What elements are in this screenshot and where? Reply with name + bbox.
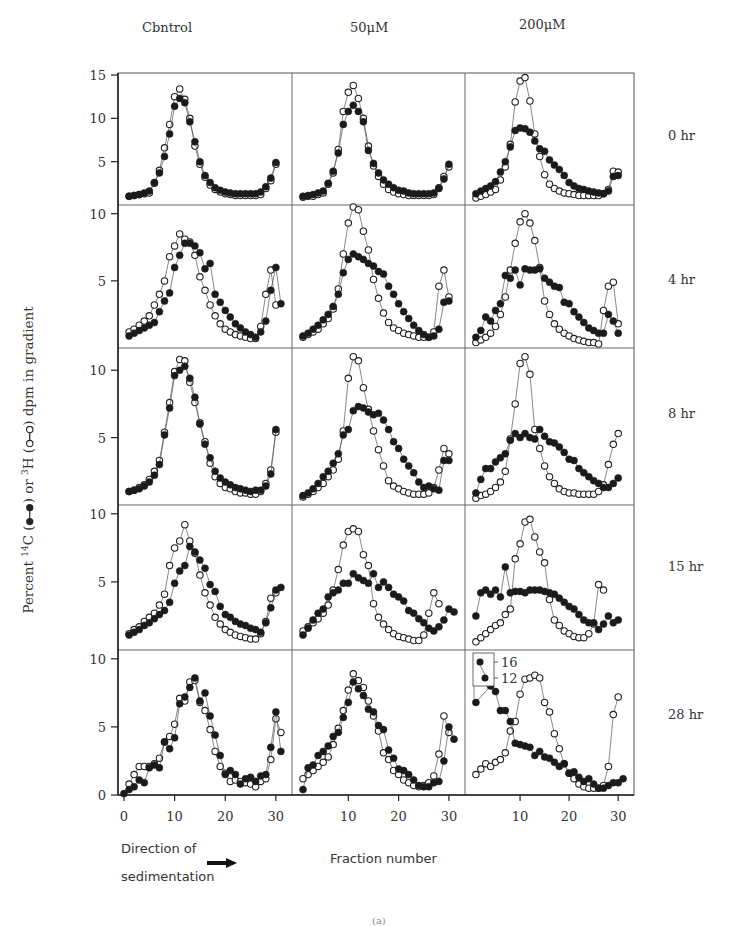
c14-point (222, 307, 229, 314)
h3-point (156, 291, 162, 297)
x-tick-label: 30 (268, 809, 285, 824)
c14-point (526, 129, 533, 136)
panel-4-0 (121, 674, 285, 797)
h3-point (252, 636, 258, 642)
h3-point (421, 632, 427, 638)
row-label-15hr: 15 hr (668, 559, 703, 574)
c14-point (340, 431, 347, 438)
h3-point (605, 763, 611, 769)
c14-point (325, 180, 332, 187)
h3-point (365, 247, 371, 253)
h3-point (217, 321, 223, 327)
c14-point (171, 734, 178, 741)
c14-point (257, 629, 264, 636)
c14-point (531, 137, 538, 144)
h3-point (541, 463, 547, 469)
h3-point (502, 750, 508, 756)
h3-point (517, 219, 523, 225)
c14-point (272, 708, 279, 715)
c14-point (176, 252, 183, 259)
c14-point (141, 779, 148, 786)
h3-point (365, 562, 371, 568)
c14-point (202, 265, 209, 272)
c14-point (451, 608, 458, 615)
c14-point (435, 778, 442, 785)
c14-point (156, 764, 163, 771)
c14-point (272, 159, 279, 166)
c14-point (207, 713, 214, 720)
h3-point (502, 294, 508, 300)
ylabel-h-superscript: 3 (20, 469, 30, 475)
panel-3-2 (472, 516, 621, 645)
c14-point (605, 311, 612, 318)
h3-point (360, 228, 366, 234)
column-title-50uM: 50μM (350, 20, 388, 35)
c14-point (610, 318, 617, 325)
c14-point (355, 108, 362, 115)
plot-frame (118, 73, 634, 795)
c14-point (267, 604, 274, 611)
h3-point (537, 675, 543, 681)
c14-point (370, 160, 377, 167)
h3-point (512, 240, 518, 246)
c14-point (420, 619, 427, 626)
c14-point (497, 300, 504, 307)
c14-point (610, 480, 617, 487)
c14-point (536, 265, 543, 272)
h3-point (441, 713, 447, 719)
c14-point (575, 314, 582, 321)
c14-point (340, 269, 347, 276)
c14-point (477, 327, 484, 334)
c14-point (487, 465, 494, 472)
h3-point (610, 441, 616, 447)
h3-point (375, 447, 381, 453)
c14-point (335, 291, 342, 298)
h3-point (527, 220, 533, 226)
c14-point (571, 308, 578, 315)
c14-point (477, 476, 484, 483)
h3-point (375, 614, 381, 620)
c14-point (615, 172, 622, 179)
h3-point (436, 601, 442, 607)
c14-point (202, 441, 209, 448)
h3-line (129, 89, 276, 196)
h3-point (166, 254, 172, 260)
c14-point (156, 169, 163, 176)
panel-2-1 (300, 354, 453, 501)
h3-point (355, 207, 361, 213)
h3-point (207, 726, 213, 732)
c14-point (181, 363, 188, 370)
c14-point (212, 588, 219, 595)
c14-point (472, 334, 479, 341)
c14-point (502, 450, 509, 457)
c14-point (151, 179, 158, 186)
c14-point (191, 138, 198, 145)
c14-point (272, 426, 279, 433)
c14-point (585, 775, 592, 782)
h3-point (416, 637, 422, 643)
c14-point (161, 298, 168, 305)
h3-point (207, 302, 213, 308)
c14-point (171, 372, 178, 379)
x-tick-label: 20 (561, 809, 578, 824)
ylabel-suffix: ) dpm in gradient (20, 306, 36, 425)
c14-point (217, 299, 224, 306)
c14-point (217, 752, 224, 759)
h3-point (273, 716, 279, 722)
c14-point (350, 679, 357, 686)
c14-point (410, 469, 417, 476)
c14-point (325, 468, 332, 475)
c14-point (445, 723, 452, 730)
h3-point (586, 631, 592, 637)
c14-point (615, 617, 622, 624)
h3-point (345, 220, 351, 226)
c14-point (257, 189, 264, 196)
c14-point (267, 175, 274, 182)
h3-point (492, 484, 498, 490)
c14-point (196, 249, 203, 256)
c14-point (186, 543, 193, 550)
c14-point (350, 102, 357, 109)
h3-point (325, 754, 331, 760)
c14-point (615, 330, 622, 337)
c14-point (435, 487, 442, 494)
